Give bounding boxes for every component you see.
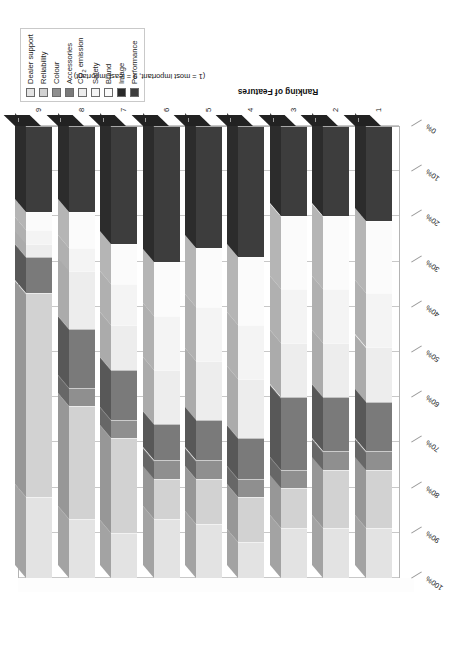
bar-row[interactable]	[154, 126, 180, 578]
bar-segment[interactable]	[238, 479, 264, 497]
bar-segment[interactable]	[281, 343, 307, 397]
bar-row[interactable]	[238, 126, 264, 578]
bar-row[interactable]	[26, 126, 52, 578]
bar-segment[interactable]	[281, 289, 307, 343]
bar-segment[interactable]	[238, 126, 264, 257]
bar-row[interactable]	[281, 126, 307, 578]
bar-segment[interactable]	[366, 451, 392, 469]
bar-segment[interactable]	[323, 451, 349, 469]
bar-segment[interactable]	[111, 370, 137, 420]
legend-image: Image	[116, 34, 127, 97]
bar-segment-face	[366, 348, 392, 402]
bar-segment[interactable]	[26, 126, 52, 212]
bar-segment[interactable]	[366, 348, 392, 402]
bar-segment[interactable]	[196, 361, 222, 420]
bar-segment[interactable]	[154, 519, 180, 578]
bar-segment[interactable]	[111, 244, 137, 285]
legend-reliability: Reliability	[38, 34, 49, 97]
bar-segment[interactable]	[238, 257, 264, 325]
bar-row[interactable]	[111, 126, 137, 578]
bar-segment[interactable]	[111, 420, 137, 438]
bar-segment-face	[111, 126, 137, 244]
bar-segment[interactable]	[238, 438, 264, 479]
bar-segment[interactable]	[196, 479, 222, 524]
bar-segment[interactable]	[323, 528, 349, 578]
bar-segment-face	[69, 126, 95, 212]
bar-segment[interactable]	[111, 438, 137, 533]
bar-segment[interactable]	[238, 379, 264, 438]
bar-segment[interactable]	[366, 528, 392, 578]
bar-segment[interactable]	[196, 420, 222, 461]
bar-row[interactable]	[196, 126, 222, 578]
bar-segment-face	[196, 479, 222, 524]
ranking-tick-label: 7	[119, 94, 128, 112]
bar-segment[interactable]	[196, 461, 222, 479]
percent-tick-label: 70%	[424, 439, 462, 469]
bar-segment[interactable]	[366, 470, 392, 529]
bar-segment[interactable]	[154, 479, 180, 520]
bar-segment[interactable]	[154, 424, 180, 460]
bar-segment-top	[312, 203, 323, 288]
bar-segment[interactable]	[281, 126, 307, 216]
bar-segment[interactable]	[69, 271, 95, 330]
bar-row[interactable]	[323, 126, 349, 578]
bar-segment-top	[270, 384, 281, 469]
bar-segment[interactable]	[323, 343, 349, 397]
bar-segment[interactable]	[281, 216, 307, 288]
ranking-tick-label: 6	[162, 94, 171, 112]
bar-segment[interactable]	[154, 370, 180, 424]
bar-segment-face	[323, 343, 349, 397]
bar-segment[interactable]	[323, 289, 349, 343]
bar-segment[interactable]	[281, 470, 307, 488]
bar-segment[interactable]	[238, 497, 264, 542]
bar-segment[interactable]	[26, 293, 52, 496]
bar-segment[interactable]	[26, 497, 52, 578]
bar-segment[interactable]	[154, 262, 180, 316]
bar-segment-face	[69, 271, 95, 330]
bar-segment[interactable]	[154, 461, 180, 479]
bar-segment[interactable]	[238, 325, 264, 379]
bar-segment[interactable]	[69, 329, 95, 388]
bar-segment[interactable]	[69, 248, 95, 271]
bar-segment[interactable]	[69, 388, 95, 406]
bar-segment[interactable]	[366, 402, 392, 452]
bar-segment[interactable]	[26, 257, 52, 293]
bar-segment[interactable]	[69, 212, 95, 248]
bar-row[interactable]	[69, 126, 95, 578]
bar-segment[interactable]	[111, 284, 137, 325]
bar-segment[interactable]	[69, 406, 95, 519]
bar-segment[interactable]	[196, 307, 222, 361]
bar-segment[interactable]	[366, 126, 392, 221]
bar-segment[interactable]	[154, 316, 180, 370]
bar-rows	[18, 126, 400, 578]
legend-swatch-icon	[52, 88, 61, 97]
bar-segment[interactable]	[26, 212, 52, 230]
bar-segment[interactable]	[26, 244, 52, 258]
bar-segment[interactable]	[323, 126, 349, 216]
bar-segment[interactable]	[323, 216, 349, 288]
bar-segment[interactable]	[26, 230, 52, 244]
bar-segment-face	[69, 329, 95, 388]
ranking-tick-mark	[358, 118, 359, 122]
bar-segment[interactable]	[111, 126, 137, 244]
bar-segment[interactable]	[196, 248, 222, 307]
bar-segment-face	[154, 262, 180, 316]
bar-segment[interactable]	[111, 325, 137, 370]
bar-segment[interactable]	[196, 524, 222, 578]
bar-segment[interactable]	[154, 126, 180, 262]
bar-segment[interactable]	[323, 397, 349, 451]
bar-segment[interactable]	[281, 488, 307, 529]
bar-segment[interactable]	[323, 470, 349, 529]
bar-row[interactable]	[366, 126, 392, 578]
bar-segment[interactable]	[238, 542, 264, 578]
bar-segment[interactable]	[281, 397, 307, 469]
bar-segment[interactable]	[366, 293, 392, 347]
bar-segment[interactable]	[281, 528, 307, 578]
bar-segment[interactable]	[366, 221, 392, 293]
bar-segment[interactable]	[69, 126, 95, 212]
stacked-bar-chart: Dealer supportReliabilityColourAccessori…	[0, 0, 462, 650]
bar-segment[interactable]	[69, 519, 95, 578]
bar-segment-face	[26, 212, 52, 230]
bar-segment[interactable]	[196, 126, 222, 248]
bar-segment[interactable]	[111, 533, 137, 578]
